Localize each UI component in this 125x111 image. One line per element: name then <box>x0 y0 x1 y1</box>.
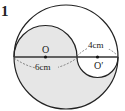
center-o-prime-dot <box>96 55 99 58</box>
label-right-diameter: 4cm <box>88 40 104 50</box>
problem-number: 1 <box>1 3 9 19</box>
circle-diagram: 1 O O′ 6cm 4cm <box>0 0 125 111</box>
label-o: O <box>42 44 49 55</box>
center-o-dot <box>44 55 47 58</box>
label-o-prime: O′ <box>94 60 103 71</box>
label-left-diameter: 6cm <box>35 62 51 72</box>
